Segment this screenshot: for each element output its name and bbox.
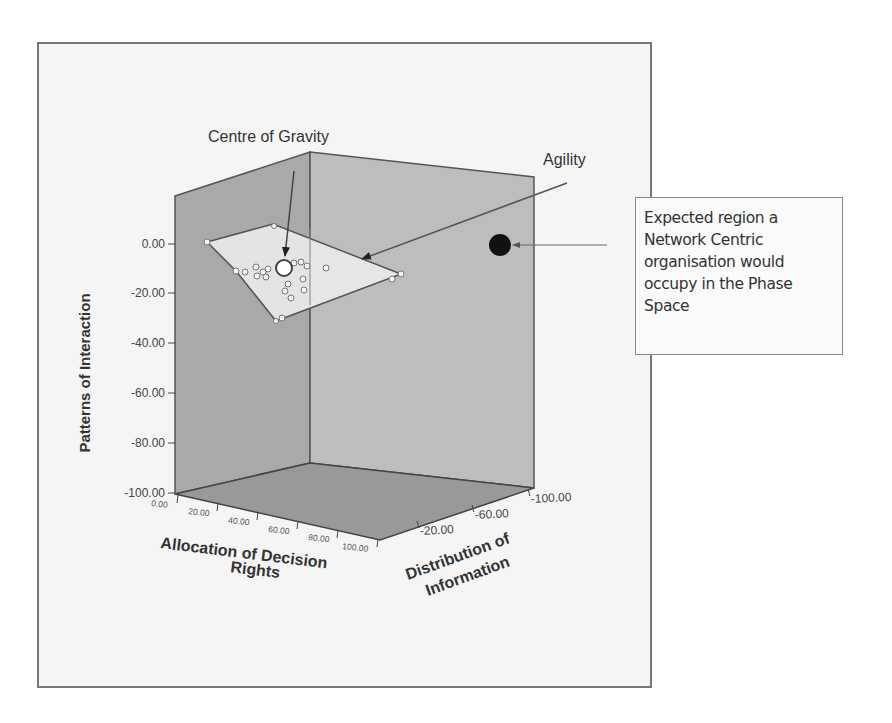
y-tick: -60.00: [131, 386, 165, 400]
y-tick: 0.00: [142, 237, 166, 251]
network-centric-callout: Expected region a Network Centric organi…: [635, 197, 843, 355]
y-tick: -40.00: [131, 336, 165, 350]
y-tick: -80.00: [131, 436, 165, 450]
back-right-wall: [310, 152, 534, 488]
x-tick: 100.00: [342, 541, 369, 554]
y-axis-label: Patterns of Interaction: [76, 293, 93, 452]
callout-line: occupy in the Phase: [644, 273, 842, 295]
callout-line: Space: [644, 295, 842, 317]
x-tick: 0.00: [151, 498, 169, 510]
callout-line: Expected region a: [644, 207, 842, 229]
x-tick: 20.00: [188, 506, 210, 518]
callout-line: organisation would: [644, 251, 842, 273]
z-tick: -60.00: [474, 506, 509, 522]
y-tick: -20.00: [131, 286, 165, 300]
3d-scatter-plot: 0.00 -20.00 -40.00 -60.00 -80.00 -100.00…: [0, 0, 892, 723]
centre-of-gravity-label: Centre of Gravity: [208, 128, 329, 145]
callout-line: Network Centric: [644, 229, 842, 251]
network-centric-point: [489, 234, 511, 256]
x-tick: 40.00: [228, 515, 250, 527]
z-tick: -100.00: [530, 490, 572, 506]
z-tick: -20.00: [419, 522, 454, 538]
agility-label: Agility: [543, 151, 586, 168]
centre-of-gravity-point: [276, 260, 292, 276]
back-left-wall: [175, 152, 310, 494]
x-tick: 80.00: [308, 532, 330, 544]
y-axis: 0.00 -20.00 -40.00 -60.00 -80.00 -100.00: [124, 237, 175, 500]
x-tick: 60.00: [268, 524, 290, 536]
